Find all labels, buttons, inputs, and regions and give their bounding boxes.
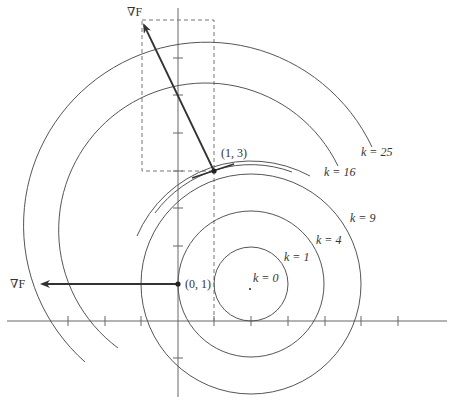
level-curve-diagram: ∇F ∇F (0, 1) (1, 3) k = 0 k = 1 k = 4 k … xyxy=(0,0,452,410)
gradient-vectors xyxy=(42,25,214,284)
label-k1: k = 1 xyxy=(284,250,309,264)
level-curve-k25 xyxy=(24,42,372,362)
point-center xyxy=(249,288,251,290)
label-k16: k = 16 xyxy=(324,165,355,179)
label-point-1-3: (1, 3) xyxy=(221,146,247,160)
level-curve-through-point xyxy=(155,165,292,213)
label-k9: k = 9 xyxy=(350,211,375,225)
point-0-1 xyxy=(175,281,180,286)
points xyxy=(175,168,251,290)
label-k0: k = 0 xyxy=(253,271,278,285)
level-curves xyxy=(24,42,372,394)
label-point-0-1: (0, 1) xyxy=(185,277,211,291)
level-curve-near-point xyxy=(137,161,310,236)
point-1-3 xyxy=(211,168,216,173)
label-gradient-2: ∇F xyxy=(127,5,142,19)
gradient-vector-at-1-3 xyxy=(144,25,214,171)
level-curve-k16 xyxy=(59,83,338,348)
axes xyxy=(7,8,447,397)
labels: ∇F ∇F (0, 1) (1, 3) k = 0 k = 1 k = 4 k … xyxy=(10,5,392,291)
label-k25: k = 25 xyxy=(361,145,392,159)
label-k4: k = 4 xyxy=(316,233,341,247)
label-gradient-1: ∇F xyxy=(10,277,25,291)
